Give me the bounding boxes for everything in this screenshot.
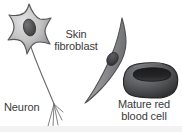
- label-neuron: Neuron: [4, 102, 39, 114]
- label-skin-fibroblast-line1: Skin: [46, 29, 106, 41]
- label-neuron-line1: Neuron: [4, 102, 39, 114]
- label-mature-red-blood-cell-line2: blood cell: [106, 111, 182, 123]
- label-skin-fibroblast-line2: fibroblast: [46, 41, 106, 53]
- red-blood-cell-depression: [133, 68, 171, 82]
- label-mature-red-blood-cell: Mature red blood cell: [106, 99, 182, 122]
- cell-types-figure: Neuron Skin fibroblast Mature red blood …: [0, 0, 182, 132]
- red-blood-cell-icon: [123, 63, 177, 98]
- neuron-axon: [31, 47, 54, 104]
- neuron-axon-terminals: [48, 104, 63, 127]
- label-skin-fibroblast: Skin fibroblast: [46, 29, 106, 52]
- bottom-edge-band: [0, 126, 182, 132]
- label-mature-red-blood-cell-line1: Mature red: [106, 99, 182, 111]
